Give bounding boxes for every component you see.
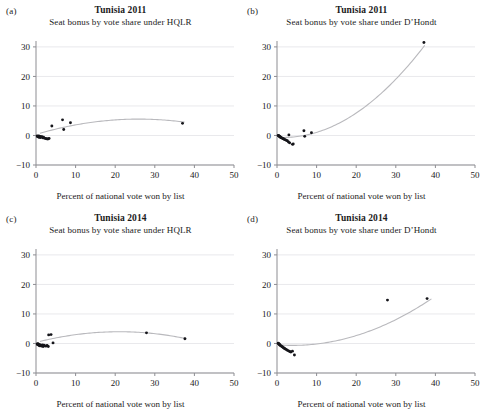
data-point [291, 350, 294, 353]
data-point [386, 299, 389, 302]
y-tick-label--10: −10 [16, 160, 31, 170]
y-tick-label-0: 0 [267, 339, 272, 349]
panel-b-xlabel: Percent of national vote won by list [241, 191, 482, 201]
x-tick-label-50: 50 [471, 170, 481, 180]
x-tick-label-30: 30 [150, 378, 160, 388]
x-tick-label-10: 10 [71, 170, 81, 180]
y-tick-label-20: 20 [262, 72, 272, 82]
y-tick-label-10: 10 [262, 101, 272, 111]
x-tick-label-10: 10 [312, 378, 322, 388]
y-tick-label-10: 10 [21, 101, 31, 111]
panel-a-title: Tunisia 2011 [0, 4, 241, 16]
y-tick-label-30: 30 [21, 250, 31, 260]
fit-curve [40, 332, 187, 342]
panel-a-subtitle: Seat bonus by vote share under HQLR [0, 16, 241, 29]
data-point [293, 354, 296, 357]
data-point [47, 345, 50, 348]
data-point [50, 333, 53, 336]
x-tick-label-20: 20 [352, 378, 362, 388]
data-point [310, 131, 313, 134]
data-point [292, 143, 295, 146]
panel-b-plot: −10010203001020304050 [241, 33, 482, 193]
panel-d: (d) Tunisia 2014 Seat bonus by vote shar… [241, 208, 482, 415]
x-tick-label-40: 40 [190, 378, 200, 388]
y-tick-label-20: 20 [262, 280, 272, 290]
data-point [52, 341, 55, 344]
x-tick-label-0: 0 [275, 378, 280, 388]
y-tick-label-0: 0 [267, 131, 272, 141]
data-point [288, 141, 291, 144]
y-tick-label-20: 20 [21, 280, 31, 290]
x-tick-label-30: 30 [391, 170, 401, 180]
fit-curve [279, 45, 425, 137]
data-point [145, 331, 148, 334]
y-tick-label-10: 10 [21, 309, 31, 319]
y-tick-label-20: 20 [21, 72, 31, 82]
x-tick-label-20: 20 [352, 170, 362, 180]
panel-a-titles: Tunisia 2011 Seat bonus by vote share un… [0, 4, 241, 29]
data-point [183, 337, 186, 340]
data-point [61, 118, 64, 121]
panel-a-xlabel: Percent of national vote won by list [0, 191, 241, 201]
figure-panel-grid: (a) Tunisia 2011 Seat bonus by vote shar… [0, 0, 482, 415]
y-tick-label-30: 30 [262, 42, 272, 52]
fit-curve [281, 299, 431, 346]
panel-d-title: Tunisia 2014 [241, 212, 482, 224]
y-tick-label-0: 0 [26, 339, 31, 349]
panel-c-plot: −10010203001020304050 [0, 241, 241, 401]
panel-b-titles: Tunisia 2011 Seat bonus by vote share un… [241, 4, 482, 29]
panel-b: (b) Tunisia 2011 Seat bonus by vote shar… [241, 0, 482, 207]
x-tick-label-0: 0 [34, 378, 39, 388]
data-point [62, 128, 65, 131]
x-tick-label-30: 30 [391, 378, 401, 388]
data-point [50, 125, 53, 128]
x-tick-label-40: 40 [431, 378, 441, 388]
x-tick-label-50: 50 [230, 378, 240, 388]
y-tick-label--10: −10 [257, 368, 272, 378]
y-tick-label-30: 30 [21, 42, 31, 52]
fit-curve [40, 119, 185, 133]
x-tick-label-40: 40 [431, 170, 441, 180]
x-tick-label-20: 20 [111, 378, 121, 388]
panel-d-subtitle: Seat bonus by vote share under D’Hondt [241, 224, 482, 237]
data-point [426, 297, 429, 300]
panel-c-titles: Tunisia 2014 Seat bonus by vote share un… [0, 212, 241, 237]
panel-c: (c) Tunisia 2014 Seat bonus by vote shar… [0, 208, 241, 415]
panel-b-subtitle: Seat bonus by vote share under D’Hondt [241, 16, 482, 29]
panel-d-xlabel: Percent of national vote won by list [241, 399, 482, 409]
panel-d-plot: −10010203001020304050 [241, 241, 482, 401]
y-tick-label--10: −10 [257, 160, 272, 170]
y-tick-label-0: 0 [26, 131, 31, 141]
x-tick-label-0: 0 [34, 170, 39, 180]
data-point [181, 122, 184, 125]
data-point [69, 121, 72, 124]
x-tick-label-40: 40 [190, 170, 200, 180]
panel-d-titles: Tunisia 2014 Seat bonus by vote share un… [241, 212, 482, 237]
x-tick-label-0: 0 [275, 170, 280, 180]
panel-c-xlabel: Percent of national vote won by list [0, 399, 241, 409]
panel-c-subtitle: Seat bonus by vote share under HQLR [0, 224, 241, 237]
x-tick-label-50: 50 [230, 170, 240, 180]
x-tick-label-10: 10 [312, 170, 322, 180]
x-tick-label-30: 30 [150, 170, 160, 180]
x-tick-label-50: 50 [471, 378, 481, 388]
panel-a: (a) Tunisia 2011 Seat bonus by vote shar… [0, 0, 241, 207]
x-tick-label-20: 20 [111, 170, 121, 180]
y-tick-label-10: 10 [262, 309, 272, 319]
y-tick-label-30: 30 [262, 250, 272, 260]
data-point [422, 41, 425, 44]
data-point [302, 129, 305, 132]
panel-b-title: Tunisia 2011 [241, 4, 482, 16]
data-point [48, 137, 51, 140]
data-point [287, 133, 290, 136]
data-point [303, 135, 306, 138]
panel-c-title: Tunisia 2014 [0, 212, 241, 224]
x-tick-label-10: 10 [71, 378, 81, 388]
panel-a-plot: −10010203001020304050 [0, 33, 241, 193]
y-tick-label--10: −10 [16, 368, 31, 378]
